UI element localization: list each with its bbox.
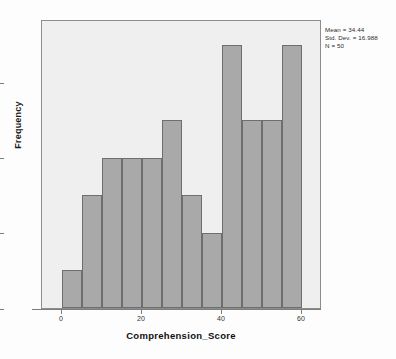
tick-mark [0, 233, 4, 234]
histogram-chart: Mean = 34.44 Std. Dev. = 16.988 N = 50 0… [0, 0, 396, 359]
histogram-bar [102, 158, 122, 308]
tick-mark [141, 309, 142, 314]
histogram-bar [242, 120, 262, 308]
tick-mark [61, 309, 62, 314]
x-tick-label: 0 [49, 315, 73, 322]
histogram-bar [62, 270, 82, 308]
histogram-bar [162, 120, 182, 308]
histogram-bar [142, 158, 162, 308]
x-tick-label: 40 [209, 315, 233, 322]
tick-mark [0, 83, 4, 84]
histogram-bars [42, 21, 320, 308]
histogram-bar [262, 120, 282, 308]
y-axis-title: Frequency [13, 65, 23, 185]
statistics-annotation: Mean = 34.44 Std. Dev. = 16.988 N = 50 [325, 26, 395, 51]
histogram-bar [82, 195, 102, 308]
histogram-bar [282, 45, 302, 308]
stat-stddev: Std. Dev. = 16.988 [325, 34, 395, 42]
histogram-bar [182, 195, 202, 308]
histogram-bar [122, 158, 142, 308]
histogram-bar [222, 45, 242, 308]
tick-mark [301, 309, 302, 314]
stat-n: N = 50 [325, 42, 395, 50]
tick-mark [221, 309, 222, 314]
tick-mark [0, 158, 4, 159]
x-axis-title: Comprehension_Score [41, 330, 321, 341]
histogram-bar [202, 233, 222, 308]
x-tick-label: 60 [289, 315, 313, 322]
plot-area [41, 20, 321, 309]
x-tick-label: 20 [129, 315, 153, 322]
stat-mean: Mean = 34.44 [325, 26, 395, 34]
